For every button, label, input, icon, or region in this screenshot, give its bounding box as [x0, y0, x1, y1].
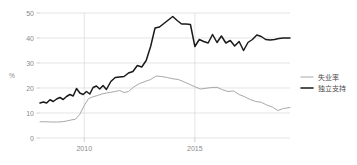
- y-tick-label: 30: [26, 60, 34, 67]
- data-series: [40, 17, 290, 123]
- x-axis-tickmarks: [84, 13, 195, 142]
- y-tick-label: 50: [26, 10, 34, 17]
- y-tick-label: 40: [26, 35, 34, 42]
- chart-plot-area: 01020304050 20102015 % 失业率独立支持: [0, 0, 357, 165]
- gridlines: [40, 13, 290, 138]
- y-axis-tick-labels: 01020304050: [26, 10, 34, 142]
- chart-legend: 失业率独立支持: [301, 73, 346, 93]
- series-line-1: [40, 17, 290, 104]
- y-tick-label: 20: [26, 85, 34, 92]
- legend-label-1: 独立支持: [318, 84, 346, 93]
- y-axis-tickmarks: [37, 13, 41, 138]
- x-tick-label: 2010: [76, 145, 92, 152]
- y-axis-label: %: [9, 72, 15, 79]
- y-tick-label: 0: [30, 135, 34, 142]
- y-tick-label: 10: [26, 110, 34, 117]
- series-line-0: [40, 76, 290, 122]
- x-axis-tick-labels: 20102015: [76, 145, 202, 152]
- legend-label-0: 失业率: [318, 73, 339, 82]
- x-tick-label: 2015: [187, 145, 203, 152]
- line-chart-figure: 01020304050 20102015 % 失业率独立支持: [0, 0, 357, 165]
